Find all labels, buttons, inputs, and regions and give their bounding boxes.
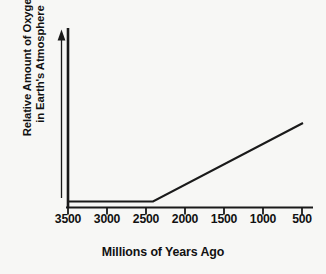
y-axis-title-text: Relative Amount of Oxygen in Earth's Atm… xyxy=(21,0,47,136)
y-axis-title-line-1: Relative Amount of Oxygen xyxy=(21,0,34,136)
arrow-up-icon xyxy=(58,30,66,199)
x-tick-label-500: 500 xyxy=(279,212,325,226)
y-axis-title-line-2: in Earth's Atmosphere xyxy=(34,0,47,136)
x-axis-tick-labels: 3500 3000 2500 2000 1500 1000 500 xyxy=(0,212,326,230)
chart-figure: Relative Amount of Oxygen in Earth's Atm… xyxy=(0,0,326,274)
x-axis-title: Millions of Years Ago xyxy=(0,245,326,259)
y-axis-title: Relative Amount of Oxygen in Earth's Atm… xyxy=(14,0,54,164)
data-series-oxygen xyxy=(68,123,303,202)
